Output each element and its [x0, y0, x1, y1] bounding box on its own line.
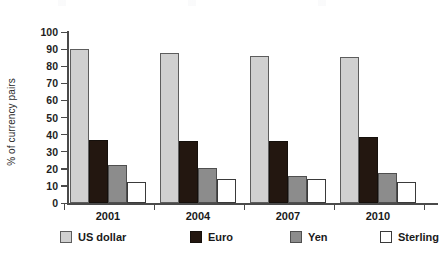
y-axis-tick-mark: [61, 168, 67, 169]
y-axis-tick-mark: [61, 134, 67, 135]
bar-euro-2007: [269, 141, 288, 203]
bar-group: [160, 32, 236, 203]
y-axis-tick-label: 10: [30, 181, 58, 191]
y-axis-tick-mark: [61, 83, 67, 84]
legend-item-euro[interactable]: Euro: [190, 229, 233, 245]
bar-yen-2007: [288, 176, 307, 203]
legend-item-label: US dollar: [78, 231, 126, 243]
bar-euro-2001: [89, 140, 108, 203]
y-axis-line: [67, 31, 69, 204]
legend-item-sterling[interactable]: Sterling: [380, 229, 439, 245]
y-axis-tick-label: 40: [30, 130, 58, 140]
x-axis-category-label: 2001: [68, 210, 148, 222]
y-axis-tick-label: 30: [30, 147, 58, 157]
x-axis-line: [67, 203, 438, 205]
x-axis-tick-mark: [334, 204, 335, 210]
legend-item-label: Yen: [308, 231, 328, 243]
y-axis-tick-label: 60: [30, 95, 58, 105]
bar-chart-figure: % of currency pairs 01020304050607080901…: [0, 0, 448, 256]
bar-group: [70, 32, 146, 203]
bar-group: [250, 32, 326, 203]
bar-yen-2004: [198, 168, 217, 203]
y-axis-tick-label: 50: [30, 113, 58, 123]
bar-us-dollar-2001: [70, 49, 89, 203]
bar-euro-2004: [179, 141, 198, 203]
y-axis-tick-mark: [61, 151, 67, 152]
y-axis-tick-label: 20: [30, 164, 58, 174]
y-axis-tick-mark: [61, 117, 67, 118]
y-axis-tick-labels: 0102030405060708090100: [26, 0, 58, 256]
legend-item-label: Sterling: [398, 231, 439, 243]
chart-legend: US dollarEuroYenSterling: [60, 229, 448, 247]
y-axis-tick-mark: [61, 32, 67, 33]
legend-item-label: Euro: [208, 231, 233, 243]
bar-us-dollar-2007: [250, 56, 269, 203]
x-axis-tick-mark: [64, 204, 65, 210]
x-axis-tick-mark: [424, 204, 425, 210]
legend-item-us-dollar[interactable]: US dollar: [60, 229, 126, 245]
bar-sterling-2004: [217, 179, 236, 203]
x-axis-tick-mark: [244, 204, 245, 210]
y-axis-title: % of currency pairs: [6, 52, 20, 192]
x-axis-tick-mark: [154, 204, 155, 210]
legend-item-yen[interactable]: Yen: [290, 229, 328, 245]
bar-group: [340, 32, 416, 203]
bar-yen-2001: [108, 165, 127, 203]
scan-artifact-band: [0, 0, 448, 6]
bar-us-dollar-2004: [160, 53, 179, 203]
y-axis-tick-label: 90: [30, 44, 58, 54]
y-axis-tick-label: 100: [30, 27, 58, 37]
legend-swatch-icon: [190, 231, 202, 243]
x-axis-category-label: 2004: [158, 210, 238, 222]
y-axis-tick-label: 70: [30, 78, 58, 88]
legend-swatch-icon: [290, 231, 302, 243]
y-axis-tick-mark: [61, 66, 67, 67]
bar-euro-2010: [359, 137, 378, 203]
y-axis-tick-mark: [61, 100, 67, 101]
y-axis-tick-label: 0: [30, 198, 58, 208]
bar-sterling-2010: [397, 182, 416, 203]
bar-sterling-2001: [127, 182, 146, 203]
bar-sterling-2007: [307, 179, 326, 203]
y-axis-tick-mark: [61, 49, 67, 50]
bar-us-dollar-2010: [340, 57, 359, 203]
x-axis-category-label: 2007: [248, 210, 328, 222]
y-axis-tick-mark: [61, 185, 67, 186]
legend-swatch-icon: [380, 231, 392, 243]
y-axis-tick-label: 80: [30, 61, 58, 71]
bar-yen-2010: [378, 173, 397, 203]
legend-swatch-icon: [60, 231, 72, 243]
x-axis-category-label: 2010: [338, 210, 418, 222]
